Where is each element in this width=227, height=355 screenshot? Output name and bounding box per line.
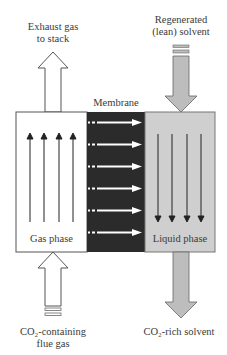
flue-gas-label: CO₂-containing flue gas [10,326,96,350]
gas-phase-label: Gas phase [16,233,87,245]
membrane-label: Membrane [86,97,146,109]
lean-solvent-label: Regenerated (lean) solvent [146,14,216,38]
rich-solvent-label: CO₂-rich solvent [136,326,222,338]
exhaust-label-line2: to stack [18,33,88,45]
exhaust-label: Exhaust gas to stack [18,21,88,45]
flue-gas-label-line1: CO₂-containing [10,326,96,338]
exhaust-label-line1: Exhaust gas [18,21,88,33]
flue-gas-arrow [38,252,68,316]
flue-gas-label-line2: flue gas [10,338,96,350]
gas-phase-zone [16,112,87,252]
lean-solvent-label-line1: Regenerated [146,14,216,26]
liquid-phase-label: Liquid phase [145,233,215,245]
lean-solvent-arrow [165,45,197,112]
liquid-phase-zone [145,112,215,252]
exhaust-arrow [38,52,68,112]
membrane-contactor-diagram [0,0,227,355]
lean-solvent-label-line2: (lean) solvent [146,26,216,38]
rich-solvent-arrow [165,252,197,318]
